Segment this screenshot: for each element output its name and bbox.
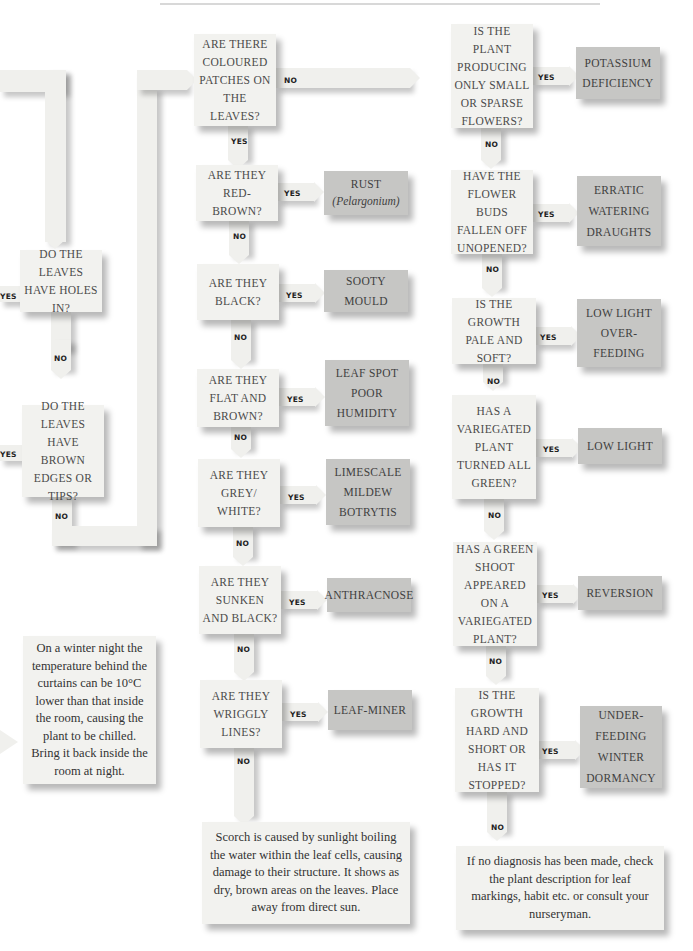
- no-label: NO: [487, 377, 500, 386]
- note-chill: On a winter night the temperature behind…: [23, 636, 156, 784]
- yes-label: YES: [231, 137, 248, 146]
- arrow-down: [231, 449, 251, 458]
- result-text: LOW LIGHT: [587, 436, 653, 456]
- result-text: LIMESCALE: [334, 462, 401, 482]
- connector: [45, 70, 66, 242]
- result-text: BOTRYTIS: [339, 502, 397, 522]
- no-label: NO: [54, 354, 67, 363]
- question-black: ARE THEY BLACK?: [197, 264, 279, 320]
- result-text: HUMIDITY: [337, 403, 398, 423]
- result-text: POOR: [351, 383, 383, 403]
- arrow-down: [231, 360, 251, 369]
- note-text: Scorch is caused by sunlight boiling the…: [210, 829, 402, 917]
- note-text: On a winter night the temperature behind…: [31, 640, 148, 780]
- arrow-right: [314, 182, 324, 202]
- question-brown-edges: DO THE LEAVES HAVE BROWN EDGES OR TIPS?: [22, 405, 104, 497]
- result-leaf-miner: LEAF-MINER: [328, 690, 412, 730]
- note-final: If no diagnosis has been made, check the…: [456, 846, 664, 930]
- result-text: DORMANCY: [586, 768, 656, 789]
- result-text: LOW LIGHT: [586, 303, 652, 323]
- question-sparse-flowers: IS THE PLANT PRODUCING ONLY SMALL OR SPA…: [451, 24, 533, 128]
- result-text: RUST: [351, 176, 382, 193]
- result-anthracnose: ANTHRACNOSE: [327, 578, 411, 612]
- no-label: NO: [489, 657, 502, 666]
- result-sooty-mould: SOOTY MOULD: [324, 270, 408, 312]
- question-text: ARE THEY RED-BROWN?: [199, 166, 275, 220]
- yes-label: YES: [290, 710, 307, 719]
- question-text: HAVE THE FLOWER BUDS FALLEN OFF UNOPENED…: [454, 167, 530, 257]
- yes-label: YES: [0, 292, 17, 301]
- arrow-down: [486, 676, 506, 685]
- question-wriggly-lines: ARE THEY WRIGGLY LINES?: [200, 680, 282, 748]
- result-text: MILDEW: [343, 482, 392, 502]
- question-text: IS THE GROWTH HARD AND SHORT OR HAS IT S…: [458, 686, 536, 794]
- connector: [137, 88, 157, 546]
- question-coloured-patches: ARE THERE COLOURED PATCHES ON THE LEAVES…: [194, 34, 276, 126]
- no-label: NO: [491, 823, 504, 832]
- result-reversion: REVERSION: [578, 576, 662, 610]
- result-text: DRAUGHTS: [586, 222, 651, 243]
- question-text: ARE THEY SUNKEN AND BLACK?: [202, 573, 278, 627]
- no-label: NO: [284, 76, 297, 85]
- question-text: HAS A GREEN SHOOT APPEARED ON A VARIEGAT…: [456, 540, 534, 648]
- question-text: IS THE PLANT PRODUCING ONLY SMALL OR SPA…: [454, 22, 530, 130]
- question-text: IS THE GROWTH PALE AND SOFT?: [455, 295, 533, 367]
- yes-label: YES: [286, 291, 303, 300]
- no-label: NO: [233, 232, 246, 241]
- no-label: NO: [237, 757, 250, 766]
- question-text: ARE THEY BLACK?: [200, 274, 276, 310]
- result-subtext: (Pelargonium): [332, 193, 399, 210]
- result-text: ANTHRACNOSE: [325, 585, 414, 605]
- question-sunken-black: ARE THEY SUNKEN AND BLACK?: [199, 566, 281, 634]
- result-text: UNDER-: [598, 705, 643, 726]
- question-text: ARE THEY GREY/ WHITE?: [201, 466, 277, 520]
- arrow-down: [51, 370, 71, 379]
- yes-label: YES: [542, 747, 559, 756]
- result-text: LEAF SPOT: [336, 363, 398, 383]
- result-under-feeding: UNDER- FEEDING WINTER DORMANCY: [580, 706, 662, 788]
- no-label: NO: [485, 140, 498, 149]
- no-label: NO: [486, 265, 499, 274]
- yes-label: YES: [538, 73, 555, 82]
- yes-label: YES: [288, 493, 305, 502]
- arrow-right: [316, 485, 326, 505]
- yes-label: YES: [542, 591, 559, 600]
- result-text: LEAF-MINER: [334, 700, 407, 720]
- result-text: POTASSIUM: [585, 53, 652, 73]
- top-rule: [160, 3, 600, 5]
- result-erratic-watering: ERRATIC WATERING DRAUGHTS: [577, 176, 661, 246]
- note-scorch: Scorch is caused by sunlight boiling the…: [202, 822, 410, 924]
- yes-label: YES: [284, 189, 301, 198]
- arrow-down: [233, 557, 253, 566]
- question-text: ARE THERE COLOURED PATCHES ON THE LEAVES…: [197, 35, 273, 125]
- result-text: WATERING: [588, 201, 649, 222]
- result-leaf-spot: LEAF SPOT POOR HUMIDITY: [325, 360, 409, 426]
- question-flat-brown: ARE THEY FLAT AND BROWN?: [197, 369, 279, 427]
- question-red-brown: ARE THEY RED-BROWN?: [196, 165, 278, 221]
- question-growth-hard: IS THE GROWTH HARD AND SHORT OR HAS IT S…: [455, 688, 539, 792]
- yes-label: YES: [538, 210, 555, 219]
- result-rust: RUST (Pelargonium): [324, 171, 408, 215]
- yes-label: YES: [543, 445, 560, 454]
- result-low-light-over-feeding: LOW LIGHT OVER-FEEDING: [577, 299, 661, 367]
- question-variegated-green: HAS A VARIEGATED PLANT TURNED ALL GREEN?: [452, 395, 536, 499]
- question-text: DO THE LEAVES HAVE BROWN EDGES OR TIPS?: [25, 397, 101, 505]
- result-text: ERRATIC: [594, 180, 644, 201]
- note-text: If no diagnosis has been made, check the…: [464, 853, 656, 923]
- result-potassium-deficiency: POTASSIUM DEFICIENCY: [576, 47, 660, 99]
- yes-label: YES: [540, 333, 557, 342]
- question-grey-white: ARE THEY GREY/ WHITE?: [198, 459, 280, 527]
- arrow-down: [484, 531, 504, 540]
- no-label: NO: [236, 539, 249, 548]
- yes-label: YES: [289, 598, 306, 607]
- question-flower-buds: HAVE THE FLOWER BUDS FALLEN OFF UNOPENED…: [451, 170, 533, 254]
- connector: [137, 70, 187, 90]
- result-low-light: LOW LIGHT: [578, 428, 662, 464]
- result-limescale: LIMESCALE MILDEW BOTRYTIS: [326, 459, 410, 525]
- arrow-right: [0, 730, 18, 754]
- result-text: OVER-FEEDING: [579, 323, 659, 363]
- question-text: HAS A VARIEGATED PLANT TURNED ALL GREEN?: [455, 402, 533, 492]
- no-label: NO: [55, 512, 68, 521]
- arrow-right: [318, 702, 328, 722]
- no-label: NO: [234, 333, 247, 342]
